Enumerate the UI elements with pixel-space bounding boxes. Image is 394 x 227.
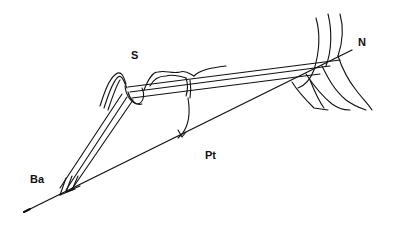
tracing-drawing [0, 0, 394, 227]
landmark-label-s: S [131, 50, 138, 61]
sella-nasion-lines [128, 60, 340, 98]
nasal-frontal-outlines [292, 14, 372, 110]
landmark-label-pt: Pt [205, 150, 216, 161]
landmark-label-n: N [358, 37, 366, 48]
landmark-label-ba: Ba [30, 174, 44, 185]
cephalometric-diagram: S N Ba Pt [0, 0, 394, 227]
